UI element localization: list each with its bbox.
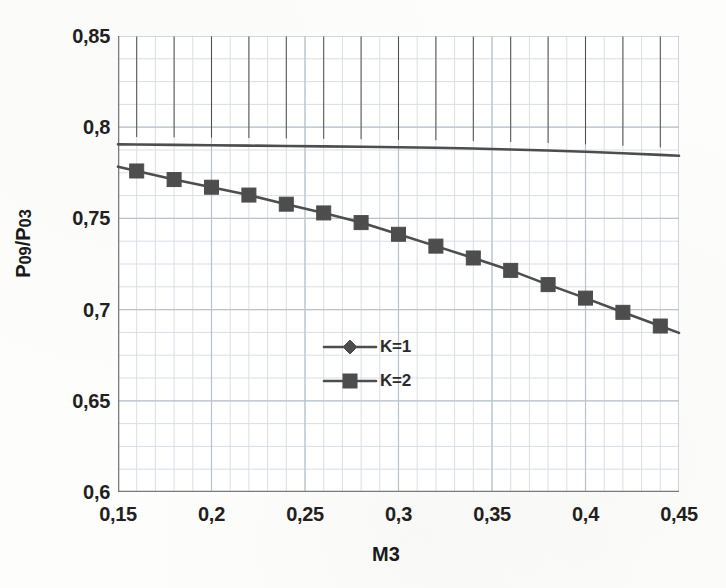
- legend-item-label: K=1: [380, 337, 411, 357]
- chart-legend: K=1K=2: [322, 330, 472, 398]
- y-axis-title-sub2: 03: [16, 209, 34, 227]
- legend-diamond-marker-icon: [322, 336, 378, 358]
- x-axis-tick-label: 0,2: [172, 503, 252, 526]
- y-axis-title-p2: P: [12, 227, 34, 240]
- y-axis-tick-label: 0,65: [44, 389, 110, 412]
- y-axis-tick-label: 0,7: [44, 298, 110, 321]
- x-axis-tick-labels: 0,150,20,250,30,350,40,45: [118, 503, 679, 533]
- legend-item: K=2: [322, 364, 472, 398]
- y-axis-tick-label: 0,75: [44, 207, 110, 230]
- x-axis-tick-label: 0,15: [78, 503, 158, 526]
- y-axis-title-sub1: 09: [16, 246, 34, 264]
- x-axis-tick-label: 0,4: [546, 503, 626, 526]
- data-series-layer: [118, 36, 679, 492]
- x-axis-title: M3: [372, 543, 400, 566]
- y-axis-title: P09/P03: [12, 159, 35, 329]
- y-axis-title-p1: P: [12, 265, 34, 278]
- legend-item-label: K=2: [380, 371, 411, 391]
- plot-area: [118, 36, 679, 492]
- y-axis-tick-label: 0,6: [44, 481, 110, 504]
- x-axis-tick-label: 0,35: [452, 503, 532, 526]
- y-axis-tick-labels: 0,60,650,70,750,80,85: [38, 36, 110, 492]
- x-axis-tick-label: 0,25: [265, 503, 345, 526]
- y-axis-tick-label: 0,8: [44, 116, 110, 139]
- y-axis-tick-label: 0,85: [44, 25, 110, 48]
- x-axis-tick-label: 0,45: [639, 503, 719, 526]
- chart-figure: 0,60,650,70,750,80,85 0,150,20,250,30,35…: [0, 0, 726, 588]
- legend-square-marker-icon: [322, 370, 378, 392]
- legend-item: K=1: [322, 330, 472, 364]
- x-axis-tick-label: 0,3: [359, 503, 439, 526]
- y-axis-title-slash: /: [12, 241, 34, 247]
- x-axis-title-wrap: M3: [0, 543, 726, 566]
